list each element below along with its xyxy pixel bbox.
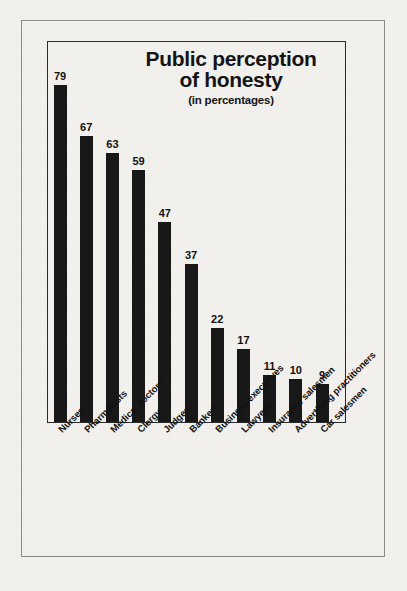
category-label: Nurses — [56, 405, 86, 435]
category-label: Judges — [161, 404, 192, 435]
chart-subtitle: (in percentages) — [120, 94, 342, 106]
title-block: Public perception of honesty (in percent… — [120, 48, 342, 106]
page-title: Public perception of honesty — [120, 48, 342, 91]
chart-page: 796763594737221711109 NursesPharmacistsM… — [0, 0, 407, 591]
